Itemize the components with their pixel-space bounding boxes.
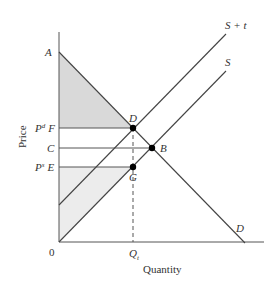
point-D [130, 125, 136, 131]
label-D-point: D [128, 112, 137, 124]
label-G: G [129, 171, 137, 183]
label-supply: S [225, 56, 231, 68]
label-C: C [47, 142, 55, 154]
x-axis-title: Quantity [143, 263, 182, 275]
label-demand: D [235, 222, 244, 234]
label-origin: 0 [49, 246, 55, 258]
tax-incidence-diagram: A D B G PdF C PsE S + t S D 0 Qt Quantit… [0, 0, 273, 290]
label-Qt: Qt [129, 247, 140, 262]
point-G [130, 164, 136, 170]
label-B: B [160, 142, 167, 154]
label-Ps-E: PsE [34, 161, 54, 173]
label-A: A [44, 46, 52, 58]
label-Pd-F: PdF [34, 122, 55, 134]
y-axis-title: Price [16, 125, 28, 148]
point-B [149, 145, 155, 151]
label-supply-tax: S + t [225, 19, 247, 31]
diagram-canvas: A D B G PdF C PsE S + t S D 0 Qt Quantit… [0, 0, 273, 290]
